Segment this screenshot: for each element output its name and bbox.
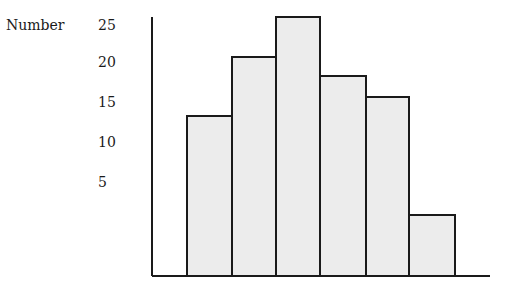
bars-group bbox=[187, 17, 455, 276]
bar-3 bbox=[276, 17, 320, 276]
bar-5 bbox=[366, 97, 409, 276]
bar-chart bbox=[0, 0, 508, 295]
bar-4 bbox=[320, 76, 366, 276]
bar-6 bbox=[409, 215, 455, 276]
bar-1 bbox=[187, 116, 232, 276]
bar-2 bbox=[232, 57, 276, 276]
